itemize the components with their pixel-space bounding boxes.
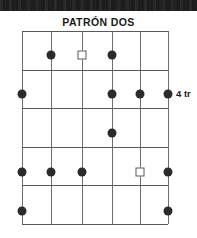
fret-line-2	[22, 108, 168, 109]
note-marker-dot-s2-f1	[47, 51, 56, 60]
fret-line-5	[22, 224, 168, 225]
note-marker-dot-s1-f5	[18, 207, 27, 216]
note-marker-dot-s6-f2	[164, 90, 173, 99]
string-line-1	[22, 31, 23, 224]
pattern-diagram-page: PATRÓN DOS 4 tr	[0, 0, 197, 238]
root-marker-square-s5-f4	[136, 168, 145, 177]
root-marker-square-s3-f1	[78, 51, 87, 60]
note-marker-dot-s5-f2	[136, 90, 145, 99]
fret-line-3	[22, 147, 168, 148]
string-line-4	[112, 31, 113, 224]
note-marker-dot-s2-f4	[47, 168, 56, 177]
string-line-2	[51, 31, 52, 224]
note-marker-dot-s6-f5	[164, 207, 173, 216]
note-marker-dot-s1-f2	[18, 90, 27, 99]
note-marker-dot-s4-f1	[108, 51, 117, 60]
note-marker-dot-s1-f4	[18, 168, 27, 177]
note-marker-dot-s6-f4	[164, 168, 173, 177]
note-marker-dot-s4-f2	[108, 90, 117, 99]
note-marker-dot-s4-f3	[108, 129, 117, 138]
fretboard-diagram: 4 tr	[0, 0, 197, 238]
fret-line-4	[22, 185, 168, 186]
string-line-5	[140, 31, 141, 224]
fret-line-0	[22, 31, 168, 32]
string-line-3	[82, 31, 83, 224]
fret-position-label: 4 tr	[176, 88, 191, 99]
note-marker-dot-s3-f4	[78, 168, 87, 177]
string-line-6	[168, 31, 169, 224]
fret-line-1	[22, 70, 168, 71]
